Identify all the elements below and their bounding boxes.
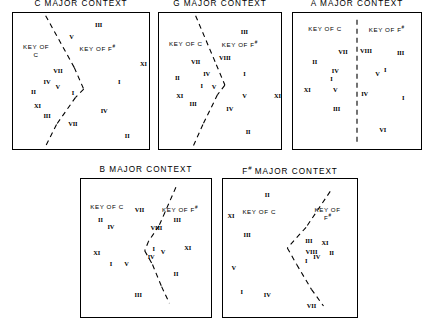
data-point-numeral: XI	[93, 249, 100, 256]
key-label-line1: KEY OF	[314, 205, 340, 212]
data-point-numeral: I	[402, 94, 404, 101]
key-label-line1: KEY OF F	[162, 206, 195, 213]
data-point-numeral: II	[125, 132, 130, 139]
key-of-c-label: KEY OF C	[169, 40, 203, 48]
key-label-line2: C	[34, 51, 39, 58]
data-point-numeral: VII	[68, 120, 77, 127]
data-point-numeral: I	[330, 75, 332, 82]
data-point-numeral: IV	[107, 222, 114, 229]
data-point-numeral: I	[305, 257, 307, 264]
data-point-numeral: V	[375, 69, 380, 76]
data-point-numeral: II	[312, 57, 317, 64]
data-point-numeral: V	[333, 86, 338, 93]
data-point-numeral: III	[244, 231, 251, 238]
data-point-numeral: I	[384, 65, 386, 72]
panel-title: B MAJOR CONTEXT	[80, 165, 212, 174]
data-point-numeral: I	[200, 82, 202, 89]
panel-c-major: C MAJOR CONTEXTKEY OFCKEY OF F#IIIVXIVII…	[12, 0, 150, 150]
key-label-line1: KEY OF C	[169, 40, 203, 47]
data-point-numeral: II	[175, 73, 180, 80]
data-point-numeral: XI	[184, 243, 191, 250]
plot-area: KEY OF CKEY OFF#IIXIIIIIIIXIVIIIIIIVIVII…	[222, 178, 358, 318]
data-point-numeral: VI	[379, 125, 386, 132]
data-point-numeral: III	[397, 49, 404, 56]
data-point-numeral: VII	[307, 301, 316, 308]
sharp-symbol: #	[112, 44, 115, 49]
key-label-line1: KEY OF C	[308, 25, 342, 32]
data-point-numeral: IV	[332, 67, 339, 74]
data-point-numeral: IV	[44, 78, 51, 85]
sharp-symbol: #	[195, 205, 198, 210]
data-point-numeral: IV	[226, 105, 233, 112]
panel-b-major: B MAJOR CONTEXTKEY OF CKEY OF F#VIIIIIII…	[80, 165, 212, 318]
data-point-numeral: III	[135, 290, 142, 297]
panel-title-text: G MAJOR CONTEXT	[173, 0, 267, 8]
sharp-symbol: #	[255, 40, 258, 45]
key-boundary-divider	[13, 13, 149, 149]
data-point-numeral: IV	[264, 290, 271, 297]
data-point-numeral: XI	[304, 86, 311, 93]
data-point-numeral: I	[110, 260, 112, 267]
data-point-numeral: IV	[101, 106, 108, 113]
data-point-numeral: V	[56, 83, 61, 90]
panel-title: F# MAJOR CONTEXT	[222, 165, 358, 176]
panel-title-text: C MAJOR CONTEXT	[34, 0, 127, 8]
data-point-numeral: VIII	[360, 46, 372, 53]
data-point-numeral: XI	[228, 211, 235, 218]
data-point-numeral: I	[72, 88, 74, 95]
data-point-numeral: XI	[321, 239, 328, 246]
data-point-numeral: V	[124, 260, 129, 267]
data-point-numeral: IV	[203, 69, 210, 76]
data-point-numeral: IV	[313, 253, 320, 260]
data-point-numeral: XI	[34, 102, 41, 109]
data-point-numeral: I	[118, 78, 120, 85]
data-point-numeral: VII	[53, 67, 62, 74]
key-of-f-sharp-label: KEY OF F#	[369, 25, 404, 34]
data-point-numeral: II	[174, 269, 179, 276]
data-point-numeral: V	[242, 91, 247, 98]
plot-area: KEY OFCKEY OF F#IIIVXIVIIIVIVIIIXIIIIIVV…	[12, 12, 150, 150]
panel-title: G MAJOR CONTEXT	[158, 0, 282, 8]
key-of-c-label: KEY OF C	[90, 203, 124, 211]
data-point-numeral: I	[241, 287, 243, 294]
data-point-numeral: XI	[176, 91, 183, 98]
data-point-numeral: I	[153, 245, 155, 252]
data-point-numeral: V	[212, 83, 217, 90]
panel-title-text: B MAJOR CONTEXT	[100, 165, 193, 174]
data-point-numeral: V	[161, 247, 166, 254]
data-point-numeral: VIII	[151, 224, 163, 231]
key-of-c-label: KEY OF C	[308, 25, 342, 33]
data-point-numeral: V	[231, 264, 236, 271]
plot-area: KEY OF CKEY OF F#VIIIIIIIIVVIIIIVXIXIIVI…	[80, 178, 212, 318]
data-point-numeral: III	[174, 216, 181, 223]
key-of-f-sharp-label: KEY OFF#	[314, 205, 340, 222]
panel-f-sharp-major: F# MAJOR CONTEXTKEY OF CKEY OFF#IIXIIIII…	[222, 165, 358, 318]
key-label-line1: KEY OF C	[242, 208, 276, 215]
data-point-numeral: VII	[135, 206, 144, 213]
key-boundary-divider	[159, 13, 281, 149]
key-boundary-divider	[81, 179, 211, 317]
sharp-symbol: #	[328, 213, 331, 218]
key-of-f-sharp-label: KEY OF F#	[162, 205, 197, 214]
key-of-c-label: KEY OFC	[23, 43, 49, 59]
panel-title: A MAJOR CONTEXT	[292, 0, 422, 8]
panel-g-major: G MAJOR CONTEXTKEY OF CKEY OF F#IIIVIIIV…	[158, 0, 282, 150]
panel-title-text: A MAJOR CONTEXT	[311, 0, 403, 8]
sharp-symbol: #	[402, 25, 405, 30]
panel-title-text: MAJOR CONTEXT	[252, 167, 338, 176]
data-point-numeral: IV	[148, 253, 155, 260]
data-point-numeral: III	[241, 27, 248, 34]
data-point-numeral: II	[31, 87, 36, 94]
key-label-line1: KEY OF F	[80, 45, 113, 52]
data-point-numeral: VIII	[219, 53, 231, 60]
data-point-numeral: III	[305, 236, 312, 243]
data-point-numeral: II	[98, 216, 103, 223]
figure-canvas: C MAJOR CONTEXTKEY OFCKEY OF F#IIIVXIVII…	[0, 0, 433, 330]
data-point-numeral: I	[243, 69, 245, 76]
plot-area: KEY OF CKEY OF F#VIIVIIIIIIIIIVVIIXIVIVI…	[292, 12, 422, 150]
key-of-f-sharp-label: KEY OF F#	[80, 44, 115, 53]
key-label-line1: KEY OF	[23, 43, 49, 50]
data-point-numeral: V	[69, 33, 74, 40]
panel-a-major: A MAJOR CONTEXTKEY OF CKEY OF F#VIIVIIII…	[292, 0, 422, 150]
data-point-numeral: VII	[338, 48, 347, 55]
